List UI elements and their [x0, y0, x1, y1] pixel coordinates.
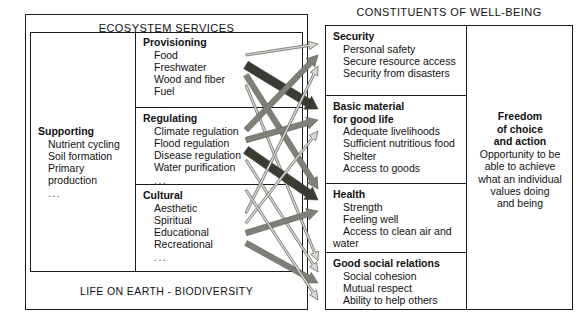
good-social-relations-item: Social cohesion — [333, 270, 466, 282]
freedom-heading-line1: Freedom — [468, 110, 572, 123]
freedom-heading-line2: of choice — [468, 123, 572, 136]
cultural-item: Spiritual — [143, 214, 303, 226]
good-social-relations-heading: Good social relations — [333, 257, 466, 270]
category-regulating: Regulating Climate regulation Flood regu… — [135, 107, 303, 184]
freedom-of-choice-panel: Freedom of choice and action Opportunity… — [468, 110, 572, 210]
basic-material-heading: Basic material — [333, 100, 466, 113]
cultural-item: Aesthetic — [143, 202, 303, 214]
basic-material-item: Shelter — [333, 150, 466, 162]
provisioning-heading: Provisioning — [143, 36, 303, 49]
constituents-of-wellbeing-title: CONSTITUENTS OF WELL-BEING — [325, 6, 573, 18]
provisioning-item: Wood and fiber — [143, 73, 303, 85]
constituents-column-divider — [466, 25, 467, 310]
basic-material-item: Access to goods — [333, 162, 466, 174]
freedom-text-line2: able to achieve — [468, 160, 572, 172]
supporting-item: Primary production — [38, 162, 133, 187]
health-item: Feeling well — [333, 213, 466, 225]
diagram-canvas: ECOSYSTEM SERVICES Supporting Nutrient c… — [0, 0, 576, 329]
health-heading: Health — [333, 188, 466, 201]
category-cultural: Cultural Aesthetic Spiritual Educational… — [135, 184, 303, 272]
cultural-item: Educational — [143, 226, 303, 238]
life-on-earth-label: LIFE ON EARTH - BIODIVERSITY — [25, 285, 308, 297]
regulating-item: Disease regulation — [143, 149, 303, 161]
good-social-relations-item: Ability to help others — [333, 294, 466, 306]
regulating-item: Climate regulation — [143, 125, 303, 137]
cultural-item: Recreational — [143, 238, 303, 250]
provisioning-item: Freshwater — [143, 61, 303, 73]
regulating-heading: Regulating — [143, 112, 303, 125]
wellbeing-good-social-relations: Good social relations Social cohesion Mu… — [326, 252, 466, 309]
cultural-heading: Cultural — [143, 189, 303, 202]
security-item: Secure resource access — [333, 55, 466, 67]
provisioning-item: Fuel — [143, 85, 303, 97]
regulating-item: Water purification — [143, 161, 303, 173]
wellbeing-health: Health Strength Feeling well Access to c… — [326, 183, 466, 252]
basic-material-item: Adequate livelihoods — [333, 125, 466, 137]
good-social-relations-item: Mutual respect — [333, 282, 466, 294]
supporting-ellipsis: ... — [38, 187, 133, 199]
freedom-text-line5: and being — [468, 197, 572, 209]
supporting-item: Soil formation — [38, 150, 133, 162]
health-item: water — [333, 237, 466, 249]
provisioning-item: Food — [143, 49, 303, 61]
wellbeing-basic-material: Basic material for good life Adequate li… — [326, 95, 466, 183]
basic-material-heading-line2: for good life — [333, 113, 466, 126]
regulating-item: Flood regulation — [143, 137, 303, 149]
basic-material-item: Sufficient nutritious food — [333, 137, 466, 149]
security-item: Security from disasters — [333, 67, 466, 79]
wellbeing-security: Security Personal safety Secure resource… — [326, 26, 466, 95]
freedom-text-line1: Opportunity to be — [468, 148, 572, 160]
supporting-item: Nutrient cycling — [38, 138, 133, 150]
category-provisioning: Provisioning Food Freshwater Wood and fi… — [135, 32, 303, 107]
freedom-heading-line3: and action — [468, 135, 572, 148]
health-item: Access to clean air and — [333, 225, 466, 237]
security-item: Personal safety — [333, 43, 466, 55]
supporting-heading: Supporting — [38, 125, 133, 138]
cultural-ellipsis: ... — [143, 251, 303, 263]
health-item: Strength — [333, 201, 466, 213]
freedom-text-line4: values doing — [468, 185, 572, 197]
security-heading: Security — [333, 30, 466, 43]
category-supporting: Supporting Nutrient cycling Soil formati… — [38, 125, 133, 199]
freedom-text-line3: what an individual — [468, 173, 572, 185]
